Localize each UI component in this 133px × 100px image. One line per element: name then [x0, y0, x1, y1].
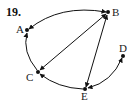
edge-c-a	[26, 33, 37, 70]
node-d	[121, 54, 125, 58]
node-label-c: C	[26, 72, 33, 83]
node-b	[106, 10, 110, 14]
node-label-a: A	[16, 24, 24, 35]
edge-b-e	[86, 15, 107, 87]
edge-e-c	[40, 74, 83, 89]
node-label-e: E	[81, 91, 88, 100]
node-label-b: B	[112, 7, 119, 18]
edge-c-b	[40, 14, 106, 70]
edge-a-b	[29, 10, 106, 29]
node-c	[36, 70, 40, 74]
node-label-d: D	[119, 43, 127, 54]
node-a	[25, 28, 29, 32]
